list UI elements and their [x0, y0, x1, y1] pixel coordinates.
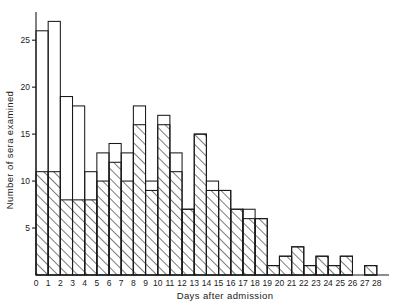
bar-hatched-day-9: [146, 190, 158, 275]
bar-hatched-day-12: [182, 209, 194, 275]
x-tick-label-8: 8: [131, 278, 136, 288]
y-tick-label-15: 15: [21, 129, 31, 139]
bar-hatched-day-18: [255, 219, 267, 275]
x-tick-label-9: 9: [143, 278, 148, 288]
x-tick-label-14: 14: [202, 278, 212, 288]
x-tick-label-11: 11: [165, 278, 174, 288]
bar-hatched-day-22: [304, 266, 316, 275]
bar-hatched-day-21: [292, 247, 304, 275]
x-tick-label-12: 12: [177, 278, 187, 288]
x-tick-label-26: 26: [348, 278, 358, 288]
x-tick-label-13: 13: [190, 278, 200, 288]
x-tick-label-16: 16: [226, 278, 236, 288]
bar-hatched-day-19: [267, 266, 279, 275]
bar-hatched-day-17: [243, 219, 255, 275]
bar-hatched-day-25: [340, 256, 352, 275]
bar-hatched-day-20: [279, 256, 291, 275]
x-tick-label-2: 2: [58, 278, 63, 288]
x-tick-label-6: 6: [107, 278, 112, 288]
x-tick-label-5: 5: [94, 278, 99, 288]
x-tick-label-4: 4: [82, 278, 87, 288]
bar-hatched-day-15: [219, 190, 231, 275]
y-tick-label-5: 5: [25, 223, 30, 233]
bar-hatched-day-27: [365, 266, 377, 275]
bar-hatched-day-2: [60, 200, 72, 275]
bar-hatched-day-13: [194, 134, 206, 275]
x-tick-label-28: 28: [372, 278, 382, 288]
x-tick-label-1: 1: [46, 278, 51, 288]
x-tick-label-15: 15: [214, 278, 224, 288]
x-tick-label-24: 24: [323, 278, 333, 288]
bar-hatched-day-1: [48, 172, 60, 275]
y-tick-label-20: 20: [21, 82, 31, 92]
x-axis-title: Days after admission: [177, 290, 274, 301]
bar-hatched-day-8: [133, 125, 145, 275]
bar-hatched-day-5: [97, 181, 109, 275]
bar-hatched-day-4: [85, 200, 97, 275]
bar-hatched-day-11: [170, 172, 182, 275]
x-tick-label-0: 0: [34, 278, 39, 288]
histogram-chart: 5101520250123456789101112131415161718192…: [0, 0, 404, 304]
x-tick-label-22: 22: [299, 278, 309, 288]
x-tick-label-23: 23: [311, 278, 321, 288]
bars-layer: [36, 21, 377, 275]
bar-hatched-day-3: [73, 200, 85, 275]
y-tick-label-10: 10: [21, 176, 31, 186]
chart-figure: 5101520250123456789101112131415161718192…: [0, 0, 404, 304]
bar-hatched-day-7: [121, 181, 133, 275]
x-tick-label-25: 25: [336, 278, 346, 288]
x-tick-label-3: 3: [70, 278, 75, 288]
bar-hatched-day-10: [158, 125, 170, 275]
x-tick-label-20: 20: [275, 278, 285, 288]
x-tick-label-21: 21: [287, 278, 297, 288]
x-tick-label-27: 27: [360, 278, 370, 288]
x-tick-label-19: 19: [263, 278, 273, 288]
x-tick-label-18: 18: [250, 278, 260, 288]
x-tick-label-17: 17: [238, 278, 248, 288]
x-tick-label-7: 7: [119, 278, 124, 288]
y-tick-label-25: 25: [21, 35, 31, 45]
bar-hatched-day-14: [206, 190, 218, 275]
x-tick-label-10: 10: [153, 278, 163, 288]
bar-hatched-day-23: [316, 256, 328, 275]
bar-hatched-day-24: [328, 266, 340, 275]
y-axis-title: Number of sera examined: [4, 91, 15, 210]
bar-hatched-day-16: [231, 209, 243, 275]
bar-hatched-day-6: [109, 162, 121, 275]
bar-hatched-day-0: [36, 172, 48, 275]
